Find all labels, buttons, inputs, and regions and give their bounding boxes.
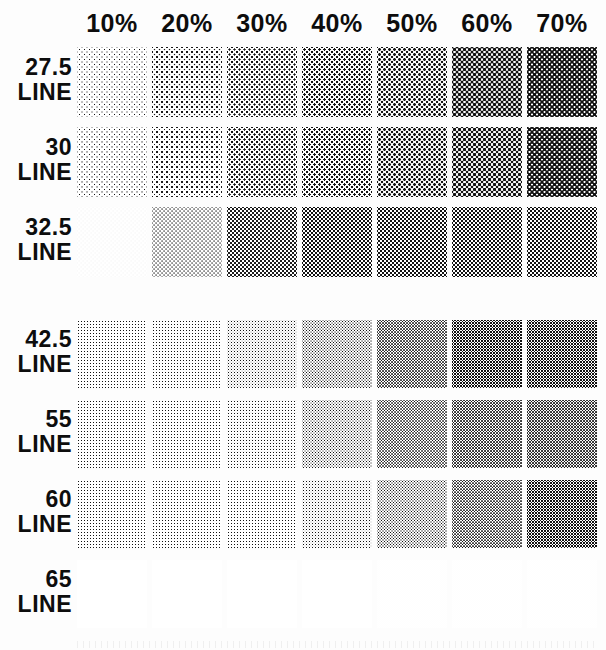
halftone-patch-42-5line-20pct xyxy=(152,320,222,388)
halftone-patch-30line-40pct xyxy=(302,127,372,197)
halftone-patch-27-5line-40pct xyxy=(302,47,372,117)
halftone-patch-30line-50pct xyxy=(377,127,447,197)
halftone-patch-32-5line-50pct xyxy=(377,207,447,277)
halftone-patch-65line-20pct xyxy=(152,560,222,628)
halftone-patch-32-5line-10pct xyxy=(77,207,147,277)
halftone-patch-65line-70pct xyxy=(527,560,597,628)
halftone-patch-60line-70pct xyxy=(527,480,597,548)
halftone-patch-27-5line-70pct xyxy=(527,47,597,117)
halftone-patch-55line-10pct xyxy=(77,400,147,468)
halftone-patch-32-5line-60pct xyxy=(452,207,522,277)
halftone-patch-42-5line-30pct xyxy=(227,320,297,388)
halftone-patch-60line-40pct xyxy=(302,480,372,548)
halftone-patch-30line-60pct xyxy=(452,127,522,197)
halftone-patch-42-5line-60pct xyxy=(452,320,522,388)
halftone-patch-42-5line-50pct xyxy=(377,320,447,388)
halftone-patch-27-5line-50pct xyxy=(377,47,447,117)
halftone-patch-55line-50pct xyxy=(377,400,447,468)
halftone-patch-65line-60pct xyxy=(452,560,522,628)
halftone-patch-42-5line-40pct xyxy=(302,320,372,388)
halftone-patch-55line-60pct xyxy=(452,400,522,468)
halftone-patch-65line-40pct xyxy=(302,560,372,628)
halftone-patch-55line-40pct xyxy=(302,400,372,468)
halftone-patch-60line-50pct xyxy=(377,480,447,548)
halftone-patch-32-5line-40pct xyxy=(302,207,372,277)
halftone-patch-60line-10pct xyxy=(77,480,147,548)
halftone-patch-65line-10pct xyxy=(77,560,147,628)
halftone-patch-27-5line-10pct xyxy=(77,47,147,117)
halftone-patch-55line-20pct xyxy=(152,400,222,468)
halftone-patch-grid xyxy=(0,0,606,650)
halftone-patch-65line-50pct xyxy=(377,560,447,628)
halftone-patch-42-5line-70pct xyxy=(527,320,597,388)
halftone-patch-30line-70pct xyxy=(527,127,597,197)
halftone-patch-30line-20pct xyxy=(152,127,222,197)
halftone-patch-32-5line-30pct xyxy=(227,207,297,277)
halftone-patch-65line-30pct xyxy=(227,560,297,628)
halftone-patch-27-5line-20pct xyxy=(152,47,222,117)
halftone-patch-32-5line-20pct xyxy=(152,207,222,277)
halftone-patch-30line-30pct xyxy=(227,127,297,197)
halftone-patch-30line-10pct xyxy=(77,127,147,197)
halftone-screen-test-chart: 10%20%30%40%50%60%70% 27.5LINE30LINE32.5… xyxy=(0,0,606,650)
halftone-patch-60line-20pct xyxy=(152,480,222,548)
scan-artifact xyxy=(77,641,599,648)
halftone-patch-60line-30pct xyxy=(227,480,297,548)
halftone-patch-27-5line-60pct xyxy=(452,47,522,117)
halftone-patch-32-5line-70pct xyxy=(527,207,597,277)
halftone-patch-27-5line-30pct xyxy=(227,47,297,117)
halftone-patch-55line-70pct xyxy=(527,400,597,468)
halftone-patch-60line-60pct xyxy=(452,480,522,548)
halftone-patch-55line-30pct xyxy=(227,400,297,468)
halftone-patch-42-5line-10pct xyxy=(77,320,147,388)
